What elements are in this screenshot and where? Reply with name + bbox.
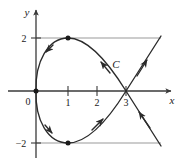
tick-label-x-3: 3: [124, 97, 129, 108]
origin-label: 0: [26, 96, 31, 107]
point-top: [66, 36, 71, 41]
direction-arrow-upper-middle: [101, 62, 110, 73]
point-bottom: [66, 141, 71, 146]
tick-label-x-1: 1: [66, 97, 71, 108]
curve-diagram-svg: y x 0 1 2 3 2 −2 C: [0, 0, 186, 161]
direction-arrow-upper-right-branch: [137, 60, 147, 76]
axes: [8, 10, 171, 158]
curve-lower-loop: [36, 91, 126, 143]
y-axis-label: y: [24, 6, 30, 18]
curve-name-label: C: [112, 58, 120, 70]
curve-branch-upper-right: [126, 36, 161, 91]
point-origin: [34, 89, 39, 94]
direction-arrow-lower-right-branch: [139, 112, 150, 128]
x-axis-label: x: [169, 94, 175, 106]
parametric-curve-figure: y x 0 1 2 3 2 −2 C: [0, 0, 186, 161]
tick-label-x-2: 2: [95, 97, 100, 108]
tick-label-y-2: 2: [22, 33, 27, 44]
tick-label-y-minus-2: −2: [16, 138, 27, 149]
